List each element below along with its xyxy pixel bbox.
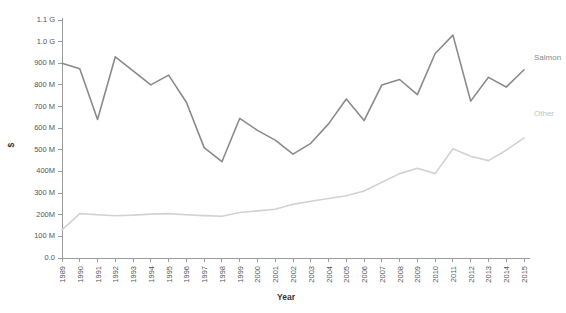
series-label-other: Other bbox=[534, 109, 554, 118]
x-tick-label: 2015 bbox=[520, 266, 529, 283]
x-tick-label: 2002 bbox=[289, 266, 298, 283]
x-tick-label: 2006 bbox=[360, 266, 369, 283]
x-tick-label: 1994 bbox=[147, 266, 156, 283]
x-tick-label: 1996 bbox=[182, 266, 191, 283]
x-tick-label: 2004 bbox=[325, 266, 334, 283]
y-tick-label: 100 M bbox=[34, 231, 55, 240]
y-axis-ticks: 0.0100 M200M300 M400M500 M600 M700 M800 … bbox=[34, 15, 62, 262]
x-tick-label: 2000 bbox=[253, 266, 262, 283]
y-tick-label: 500 M bbox=[34, 145, 55, 154]
y-tick-label: 900 M bbox=[34, 58, 55, 67]
x-tick-label: 1990 bbox=[76, 266, 85, 283]
x-tick-label: 2007 bbox=[378, 266, 387, 283]
x-tick-label: 1991 bbox=[94, 266, 103, 283]
data-series-group bbox=[62, 35, 524, 230]
x-tick-label: 2001 bbox=[271, 266, 280, 283]
x-tick-label: 2014 bbox=[502, 266, 511, 283]
y-tick-label: 600 M bbox=[34, 123, 55, 132]
x-tick-label: 2011 bbox=[449, 266, 458, 282]
x-tick-label: 2008 bbox=[396, 266, 405, 283]
x-tick-label: 1997 bbox=[200, 266, 209, 283]
x-tick-label: 2003 bbox=[307, 266, 316, 283]
x-tick-label: 2009 bbox=[413, 266, 422, 283]
y-tick-label: 800 M bbox=[34, 80, 55, 89]
chart-canvas: 0.0100 M200M300 M400M500 M600 M700 M800 … bbox=[0, 0, 566, 313]
x-tick-label: 1993 bbox=[129, 266, 138, 283]
series-line-salmon bbox=[62, 35, 524, 162]
x-tick-label: 2010 bbox=[431, 266, 440, 283]
series-line-other bbox=[62, 138, 524, 230]
line-chart: 0.0100 M200M300 M400M500 M600 M700 M800 … bbox=[0, 0, 566, 313]
series-inline-labels: SalmonOther bbox=[534, 53, 561, 118]
x-tick-label: 1995 bbox=[165, 266, 174, 283]
y-tick-label: 700 M bbox=[34, 102, 55, 111]
y-axis-title: $ bbox=[6, 142, 16, 147]
x-tick-label: 2013 bbox=[484, 266, 493, 283]
y-tick-label: 200M bbox=[36, 210, 55, 219]
x-tick-label: 1998 bbox=[218, 266, 227, 283]
x-tick-label: 1999 bbox=[236, 266, 245, 283]
y-tick-label: 300 M bbox=[34, 188, 55, 197]
x-tick-label: 2012 bbox=[467, 266, 476, 283]
y-tick-label: 0.0 bbox=[45, 253, 55, 262]
y-tick-label: 1.0 G bbox=[37, 37, 56, 46]
y-tick-label: 1.1 G bbox=[37, 15, 56, 24]
y-tick-label: 400M bbox=[36, 166, 55, 175]
x-tick-label: 2005 bbox=[342, 266, 351, 283]
x-axis-title: Year bbox=[277, 292, 296, 302]
x-tick-label: 1992 bbox=[111, 266, 120, 283]
x-tick-label: 1989 bbox=[58, 266, 67, 283]
series-label-salmon: Salmon bbox=[534, 53, 561, 62]
x-axis-ticks: 1989199019911992199319941995199619971998… bbox=[58, 258, 529, 283]
